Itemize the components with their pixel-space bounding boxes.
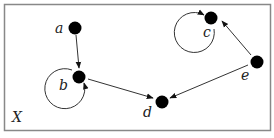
set-frame bbox=[5, 5, 271, 131]
node-e bbox=[251, 56, 264, 69]
node-label-a: a bbox=[55, 20, 63, 36]
set-label: X bbox=[11, 109, 23, 125]
node-label-b: b bbox=[59, 77, 68, 93]
node-a bbox=[69, 22, 82, 35]
node-b bbox=[73, 71, 86, 84]
node-label-d: d bbox=[143, 104, 152, 120]
diagram-canvas: a b c d e X bbox=[0, 0, 274, 138]
node-d bbox=[156, 96, 169, 109]
node-label-c: c bbox=[203, 24, 211, 40]
node-label-e: e bbox=[241, 67, 249, 83]
node-c bbox=[205, 12, 218, 25]
